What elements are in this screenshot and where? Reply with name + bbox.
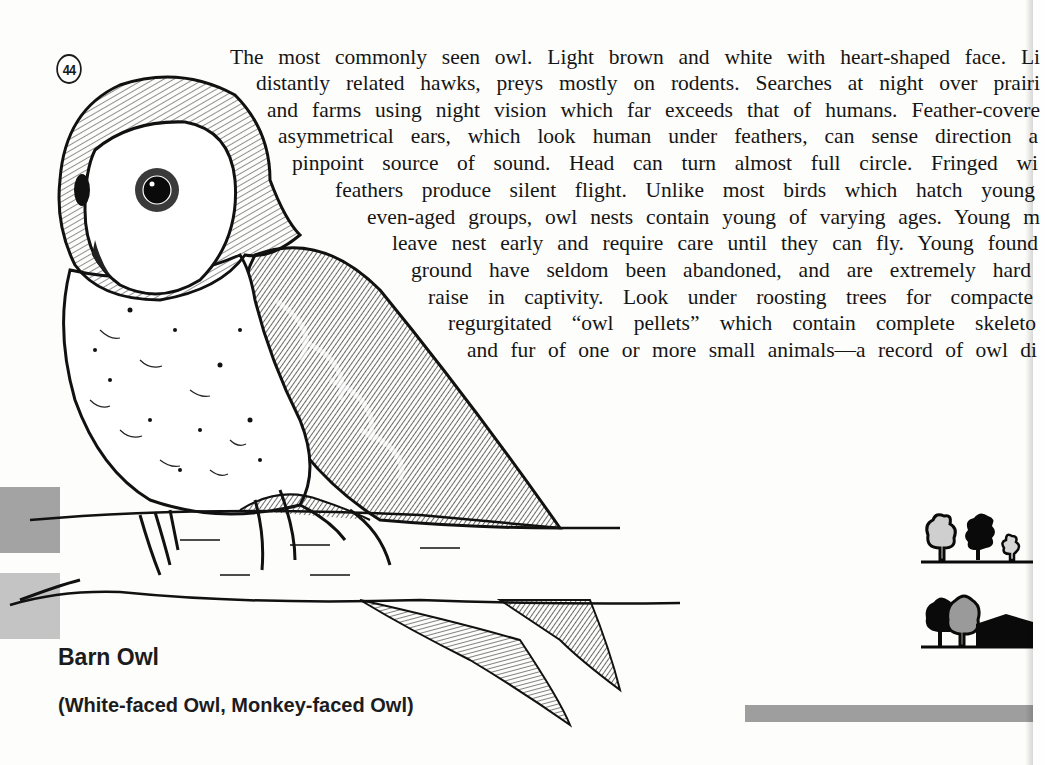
trees-open-woodland-icon — [918, 510, 1033, 570]
description-line: ground have seldom been abandoned, and a… — [411, 257, 1031, 283]
description-line: and farms using night vision which far e… — [267, 97, 1040, 123]
description-line: regurgitated “owl pellets” which contain… — [448, 310, 1036, 336]
species-alternate-names: (White-faced Owl, Monkey-faced Owl) — [58, 694, 414, 717]
description-line: pinpoint source of sound. Head can turn … — [292, 150, 1038, 176]
description-line: leave nest early and require care until … — [392, 230, 1038, 256]
description-line: distantly related hawks, preys mostly on… — [256, 70, 1040, 96]
description-line: and fur of one or more small animals—a r… — [467, 337, 1037, 363]
description-line: even-aged groups, owl nests contain youn… — [367, 204, 1040, 230]
description-line: asymmetrical ears, which look human unde… — [278, 123, 1038, 149]
description-line: raise in captivity. Look under roosting … — [428, 284, 1033, 310]
description-line: The most commonly seen owl. Light brown … — [230, 44, 1040, 70]
description-line: feathers produce silent flight. Unlike m… — [335, 177, 1035, 203]
species-common-name: Barn Owl — [58, 644, 159, 671]
range-indicator-bar — [745, 705, 1033, 722]
plate-number-badge: 44 — [56, 54, 82, 84]
trees-farm-building-icon — [918, 590, 1033, 650]
page-gutter-shadow — [1025, 0, 1033, 765]
